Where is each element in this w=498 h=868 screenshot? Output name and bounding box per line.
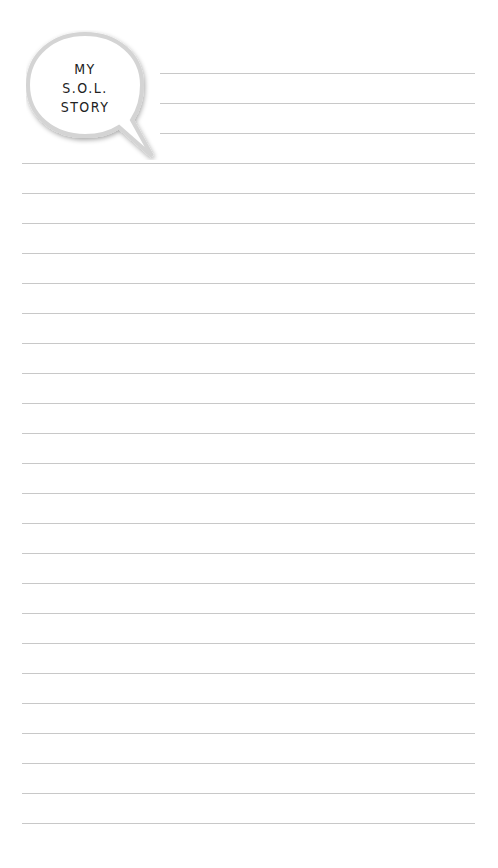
ruled-line xyxy=(22,613,475,614)
title-line-2: S.O.L. xyxy=(26,79,144,98)
ruled-line xyxy=(22,163,475,164)
ruled-line xyxy=(22,763,475,764)
ruled-line xyxy=(22,523,475,524)
ruled-line xyxy=(22,343,475,344)
title-line-3: STORY xyxy=(26,98,144,117)
ruled-line xyxy=(22,463,475,464)
title-line-1: MY xyxy=(26,60,144,79)
ruled-line xyxy=(22,313,475,314)
ruled-line xyxy=(22,283,475,284)
speech-bubble: MY S.O.L. STORY xyxy=(26,30,144,138)
ruled-line xyxy=(22,643,475,644)
ruled-line xyxy=(22,673,475,674)
ruled-line xyxy=(22,733,475,734)
ruled-line xyxy=(22,493,475,494)
bubble-title: MY S.O.L. STORY xyxy=(26,60,144,117)
ruled-line xyxy=(22,553,475,554)
ruled-line xyxy=(22,583,475,584)
ruled-line xyxy=(22,703,475,704)
ruled-line xyxy=(22,403,475,404)
ruled-line-short xyxy=(160,73,475,74)
ruled-line xyxy=(22,433,475,434)
ruled-line-short xyxy=(160,133,475,134)
ruled-line xyxy=(22,823,475,824)
ruled-line xyxy=(22,373,475,374)
ruled-line xyxy=(22,253,475,254)
ruled-line xyxy=(22,223,475,224)
ruled-line-short xyxy=(160,103,475,104)
ruled-line xyxy=(22,193,475,194)
ruled-line xyxy=(22,793,475,794)
